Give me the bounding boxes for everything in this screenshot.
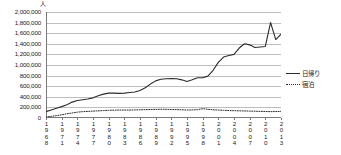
x-axis-tick [203, 118, 204, 120]
x-axis-tick [62, 118, 63, 120]
x-axis-tick-label: 1989 [153, 120, 159, 146]
y-axis-tick-label: 1,400,000 [15, 41, 41, 47]
x-axis-tick [156, 118, 157, 120]
x-axis-tick-label: 1977 [90, 120, 96, 146]
y-axis-unit-label: 人 [40, 0, 46, 8]
y-axis-tick-label: 600,000 [20, 83, 41, 89]
x-axis-tick-label: 1968 [43, 120, 49, 146]
x-axis-tick [46, 118, 47, 120]
x-axis-tick-label: 1995 [184, 120, 190, 146]
x-axis-tick-label: 1983 [121, 120, 127, 146]
series-line-day-trip [46, 23, 281, 112]
series-layer [46, 12, 281, 118]
x-axis-tick-label: 2013 [278, 120, 284, 146]
x-axis-tick [250, 118, 251, 120]
x-axis-tick [281, 118, 282, 120]
x-axis-tick-label: 2001 [215, 120, 221, 146]
y-axis-tick-label: 400,000 [20, 94, 41, 100]
x-axis-tick [171, 118, 172, 120]
x-axis-tick [265, 118, 266, 120]
y-axis-tick-label: 2,000,000 [15, 9, 41, 15]
y-axis-tick-label: 1,800,000 [15, 20, 41, 26]
x-axis-tick [77, 118, 78, 120]
legend-swatch-dotted-icon [286, 84, 300, 85]
x-axis-tick [218, 118, 219, 120]
y-axis-tick-label: 1,200,000 [15, 51, 41, 57]
legend-item-overnight: 宿泊 [286, 79, 341, 90]
x-axis-tick-label: 1986 [137, 120, 143, 146]
x-axis-labels: 1968197119741977198019831986198919921995… [46, 120, 281, 154]
y-axis-tick-label: 200,000 [20, 104, 41, 110]
tourism-line-chart: 人 2,000,0001,800,0001,600,0001,400,0001,… [0, 0, 341, 155]
x-axis-tick [187, 118, 188, 120]
x-axis-tick-label: 2007 [247, 120, 253, 146]
y-axis-tick-label: 0 [38, 115, 41, 121]
y-axis-tick-label: 1,600,000 [15, 30, 41, 36]
x-axis-tick-label: 1971 [59, 120, 65, 146]
legend-label-overnight: 宿泊 [302, 81, 314, 89]
x-axis-tick-label: 1998 [200, 120, 206, 146]
legend-label-day-trip: 日帰り [302, 70, 320, 78]
x-axis-tick-label: 1992 [168, 120, 174, 146]
x-axis-tick [93, 118, 94, 120]
x-axis-tick [234, 118, 235, 120]
x-axis-tick [109, 118, 110, 120]
x-axis-tick-label: 2010 [262, 120, 268, 146]
x-axis-tick-label: 1980 [106, 120, 112, 146]
y-axis-labels: 2,000,0001,800,0001,600,0001,400,0001,20… [0, 12, 44, 118]
legend-swatch-solid-icon [286, 73, 300, 74]
series-line-overnight [46, 109, 281, 117]
y-axis-tick-label: 800,000 [20, 73, 41, 79]
x-axis-tick [140, 118, 141, 120]
x-axis-tick-label: 2004 [231, 120, 237, 146]
x-axis-tick-label: 1974 [74, 120, 80, 146]
x-axis-tick [124, 118, 125, 120]
chart-legend: 日帰り 宿泊 [286, 68, 341, 90]
legend-item-day-trip: 日帰り [286, 68, 341, 79]
y-axis-tick-label: 1,000,000 [15, 62, 41, 68]
